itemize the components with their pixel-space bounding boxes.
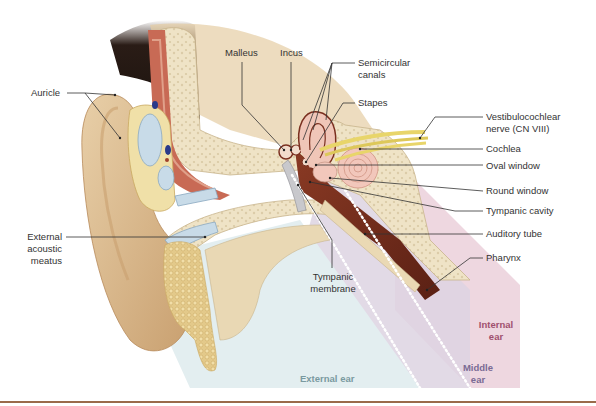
label-line: External [20,231,62,243]
label-malleus: Malleus [225,47,258,59]
label-stapes: Stapes [358,97,388,109]
region-label-external-ear: External ear [300,373,354,385]
label-line: Internal [474,319,518,331]
label-external-acoustic-meatus: External acoustic meatus [20,231,62,267]
label-line: acoustic [20,243,62,255]
label-line: Vestibulocochlear [486,111,560,123]
label-auditory-tube: Auditory tube [486,228,542,240]
label-line: ear [474,331,518,343]
bottom-divider [0,401,596,403]
label-cochlea: Cochlea [486,143,521,155]
label-line: Semicircular [358,57,410,69]
label-vestibulocochlear-nerve: Vestibulocochlear nerve (CN VIII) [486,111,560,135]
region-label-internal-ear: Internal ear [474,319,518,343]
label-line: ear [458,374,498,386]
label-round-window: Round window [486,185,548,197]
label-semicircular-canals: Semicircular canals [358,57,410,81]
label-tympanic-membrane: Tympanic membrane [305,271,361,295]
label-line: membrane [305,283,361,295]
label-oval-window: Oval window [486,160,540,172]
label-line: meatus [20,255,62,267]
cartilage-blue-2 [158,166,174,190]
label-line: Tympanic [305,271,361,283]
ear-anatomy-diagram: Auricle External acoustic meatus Malleus… [0,0,596,406]
label-incus: Incus [280,47,303,59]
ear-illustration [0,0,596,406]
label-line: nerve (CN VIII) [486,123,560,135]
label-auricle: Auricle [31,87,60,99]
label-pharynx: Pharynx [486,252,521,264]
label-tympanic-cavity: Tympanic cavity [486,205,554,217]
region-label-middle-ear: Middle ear [458,362,498,386]
label-line: canals [358,69,410,81]
label-line: Middle [458,362,498,374]
cartilage-blue-1 [138,114,162,166]
